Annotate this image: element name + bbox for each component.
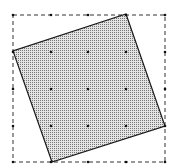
- lattice-point: [12, 125, 15, 128]
- lattice-point: [164, 161, 167, 164]
- lattice-point: [87, 88, 90, 91]
- lattice-point: [125, 51, 128, 54]
- lattice-point: [87, 51, 90, 54]
- lattice-point: [50, 125, 53, 128]
- lattice-point: [50, 14, 53, 17]
- lattice-point: [164, 14, 167, 17]
- lattice-point: [125, 161, 128, 164]
- lattice-point: [164, 88, 167, 91]
- lattice-point: [125, 125, 128, 128]
- lattice-point: [87, 125, 90, 128]
- lattice-point: [164, 51, 167, 54]
- lattice-point: [50, 51, 53, 54]
- lattice-point: [12, 88, 15, 91]
- lattice-point: [125, 14, 128, 17]
- lattice-point: [50, 161, 53, 164]
- lattice-point: [12, 14, 15, 17]
- lattice-point: [164, 125, 167, 128]
- lattice-point: [87, 161, 90, 164]
- tilted-square-diagram: [0, 0, 173, 167]
- tilted-square-polygon: [13, 14, 165, 162]
- lattice-point: [87, 14, 90, 17]
- lattice-point: [12, 161, 15, 164]
- lattice-point: [12, 51, 15, 54]
- lattice-point: [125, 88, 128, 91]
- tilted-shaded-square: [13, 14, 165, 162]
- lattice-point: [50, 88, 53, 91]
